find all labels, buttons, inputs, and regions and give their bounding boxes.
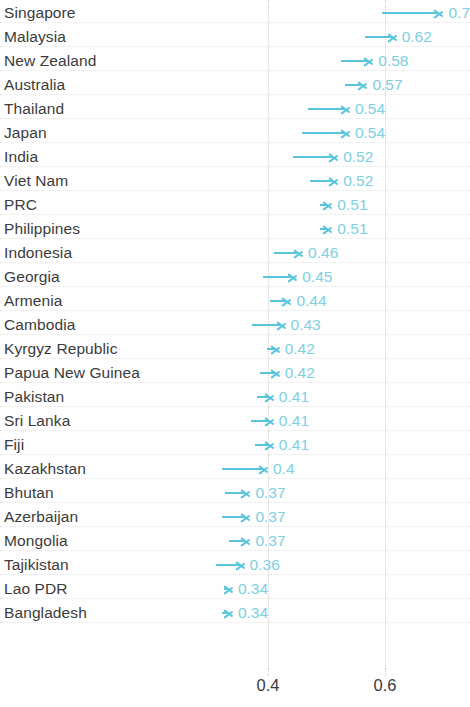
category-label: Papua New Guinea xyxy=(4,361,140,385)
arrow-head-icon xyxy=(259,463,267,476)
category-label: Australia xyxy=(4,73,65,97)
arrow-head-icon xyxy=(241,511,249,524)
value-arrow xyxy=(222,505,251,529)
chart-row: Viet Nam0.52 xyxy=(0,169,470,193)
arrow-head-icon xyxy=(265,439,273,452)
value-label: 0.51 xyxy=(337,217,367,241)
category-label: Kazakhstan xyxy=(4,457,86,481)
arrow-head-icon xyxy=(288,271,296,284)
value-label: 0.46 xyxy=(308,241,338,265)
chart-row: Philippines0.51 xyxy=(0,217,470,241)
value-label: 0.54 xyxy=(355,121,385,145)
value-arrow xyxy=(382,1,443,25)
arrow-head-icon xyxy=(329,151,337,164)
value-arrow xyxy=(216,553,245,577)
value-label: 0.37 xyxy=(255,529,285,553)
chart-row: Indonesia0.46 xyxy=(0,241,470,265)
chart-row: Thailand0.54 xyxy=(0,97,470,121)
plot-area: Singapore0.7Malaysia0.62New Zealand0.58A… xyxy=(0,0,470,707)
category-label: Philippines xyxy=(4,217,80,241)
value-label: 0.36 xyxy=(250,553,280,577)
chart-row: Cambodia0.43 xyxy=(0,313,470,337)
chart-row: Armenia0.44 xyxy=(0,289,470,313)
arrow-head-icon xyxy=(282,295,290,308)
chart-row: Fiji0.41 xyxy=(0,433,470,457)
value-arrow xyxy=(257,385,273,409)
category-label: Bangladesh xyxy=(4,601,87,625)
value-label: 0.52 xyxy=(343,145,373,169)
value-arrow xyxy=(222,601,233,625)
arrow-shaft xyxy=(302,132,344,134)
category-label: New Zealand xyxy=(4,49,96,73)
arrow-head-icon xyxy=(265,415,273,428)
chart-row: Lao PDR0.34 xyxy=(0,577,470,601)
value-arrow xyxy=(293,145,339,169)
chart-row: Malaysia0.62 xyxy=(0,25,470,49)
x-tick-mark xyxy=(385,668,386,676)
category-label: Bhutan xyxy=(4,481,54,505)
x-axis: 0.40.6 xyxy=(0,668,470,707)
value-arrow xyxy=(229,529,250,553)
category-label: Kyrgyz Republic xyxy=(4,337,118,361)
value-arrow xyxy=(251,409,274,433)
chart-row: Bhutan0.37 xyxy=(0,481,470,505)
arrow-head-icon xyxy=(341,103,349,116)
value-arrow xyxy=(320,193,332,217)
arrow-head-icon xyxy=(323,223,331,236)
value-label: 0.44 xyxy=(296,289,326,313)
arrow-shaft xyxy=(252,324,280,326)
chart-row: Mongolia0.37 xyxy=(0,529,470,553)
value-arrow xyxy=(308,97,350,121)
value-label: 0.4 xyxy=(273,457,295,481)
chart-row: Singapore0.7 xyxy=(0,1,470,25)
arrow-head-icon xyxy=(294,247,302,260)
value-label: 0.58 xyxy=(378,49,408,73)
arrow-head-icon xyxy=(271,367,279,380)
category-label: Pakistan xyxy=(4,385,64,409)
arrow-head-icon xyxy=(271,343,279,356)
category-label: Fiji xyxy=(4,433,24,457)
category-label: Azerbaijan xyxy=(4,505,78,529)
category-label: Tajikistan xyxy=(4,553,69,577)
category-label: Singapore xyxy=(4,1,76,25)
value-label: 0.62 xyxy=(402,25,432,49)
value-arrow xyxy=(260,361,280,385)
chart-row: Georgia0.45 xyxy=(0,265,470,289)
category-label: Japan xyxy=(4,121,47,145)
category-label: Georgia xyxy=(4,265,60,289)
category-label: Lao PDR xyxy=(4,577,68,601)
value-arrow xyxy=(222,457,268,481)
arrow-range-chart: Singapore0.7Malaysia0.62New Zealand0.58A… xyxy=(0,0,470,707)
category-label: Thailand xyxy=(4,97,64,121)
value-label: 0.42 xyxy=(285,361,315,385)
chart-row: India0.52 xyxy=(0,145,470,169)
arrow-head-icon xyxy=(265,391,273,404)
value-arrow xyxy=(345,73,367,97)
arrow-head-icon xyxy=(323,199,331,212)
value-arrow xyxy=(224,577,233,601)
value-label: 0.41 xyxy=(279,409,309,433)
category-label: India xyxy=(4,145,38,169)
arrow-head-icon xyxy=(224,583,232,596)
arrow-shaft xyxy=(382,12,437,14)
chart-row: Tajikistan0.36 xyxy=(0,553,470,577)
value-label: 0.37 xyxy=(255,481,285,505)
chart-row: Kazakhstan0.4 xyxy=(0,457,470,481)
arrow-head-icon xyxy=(434,7,442,20)
value-arrow xyxy=(252,313,286,337)
chart-row: Azerbaijan0.37 xyxy=(0,505,470,529)
value-arrow xyxy=(365,25,397,49)
arrow-head-icon xyxy=(341,127,349,140)
value-arrow xyxy=(255,433,274,457)
value-label: 0.7 xyxy=(449,1,470,25)
arrow-shaft xyxy=(308,108,344,110)
arrow-head-icon xyxy=(241,487,249,500)
value-label: 0.57 xyxy=(372,73,402,97)
value-label: 0.43 xyxy=(291,313,321,337)
arrow-shaft xyxy=(222,468,262,470)
x-tick-mark xyxy=(268,668,269,676)
category-label: Malaysia xyxy=(4,25,66,49)
category-label: Mongolia xyxy=(4,529,68,553)
category-label: Viet Nam xyxy=(4,169,68,193)
value-arrow xyxy=(267,337,280,361)
